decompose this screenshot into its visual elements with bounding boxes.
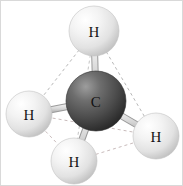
- atom-label-h-left: H: [23, 107, 34, 123]
- methane-molecule-figure: H H H C H: [0, 0, 183, 186]
- atom-label-h-right: H: [150, 129, 161, 145]
- atom-label-carbon: C: [91, 94, 101, 110]
- molecule-diagram: H H H C H: [1, 1, 183, 186]
- atom-carbon: C: [66, 71, 126, 131]
- atom-label-h-top: H: [88, 24, 99, 40]
- atom-h-bottom: H: [51, 138, 97, 184]
- atom-h-left: H: [6, 91, 52, 137]
- atom-h-right: H: [133, 113, 179, 159]
- atom-label-h-bottom: H: [68, 154, 79, 170]
- atom-h-top: H: [69, 6, 119, 56]
